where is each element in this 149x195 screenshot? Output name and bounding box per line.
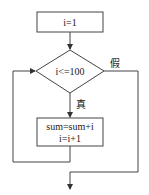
body-text-1: sum=sum+i (46, 121, 94, 132)
true-label: 真 (76, 98, 86, 110)
false-label: 假 (110, 57, 120, 69)
init-text: i=1 (63, 17, 76, 28)
condition-text: i<=100 (55, 66, 84, 77)
body-text-2: i=i+1 (59, 133, 81, 144)
loop-back-line (13, 71, 70, 162)
flowchart: i=1 i<=100 真 假 sum=sum+i i=i+1 (0, 0, 149, 195)
